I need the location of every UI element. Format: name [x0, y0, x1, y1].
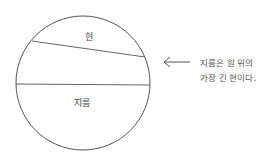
annotation-note: 지름은 원 위의 가장 긴 현이다. [200, 56, 256, 86]
circle [16, 16, 150, 150]
note-line-2: 가장 긴 현이다. [200, 71, 256, 86]
chord-label: 현 [85, 30, 93, 43]
arrow-left-icon [164, 57, 190, 67]
note-line-1: 지름은 원 위의 [200, 56, 256, 71]
diameter-label: 지름 [74, 96, 90, 109]
diameter-line [16, 84, 150, 85]
chord-line [32, 41, 145, 57]
